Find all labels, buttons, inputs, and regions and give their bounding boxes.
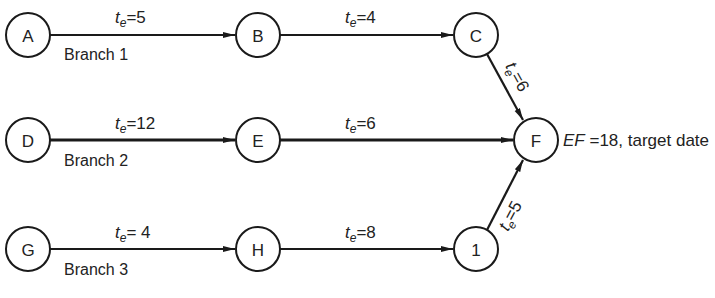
node-1: 1 xyxy=(454,227,498,271)
pert-network-diagram: A B C D E F G H 1 te=5 te=4 te=12 te=6 t… xyxy=(0,0,715,298)
node-h: H xyxy=(236,227,280,271)
svg-text:1: 1 xyxy=(471,241,480,260)
node-e: E xyxy=(236,118,280,162)
svg-text:C: C xyxy=(470,27,482,46)
svg-text:B: B xyxy=(252,27,263,46)
branch-1-label: Branch 1 xyxy=(64,46,128,63)
label-te-d-e: te=12 xyxy=(115,114,155,136)
node-a: A xyxy=(6,13,50,57)
node-b: B xyxy=(236,13,280,57)
label-te-g-h: te= 4 xyxy=(115,223,151,245)
label-te-h-1: te=8 xyxy=(345,223,376,245)
svg-text:H: H xyxy=(252,241,264,260)
node-d: D xyxy=(6,118,50,162)
svg-text:E: E xyxy=(252,132,263,151)
label-te-a-b: te=5 xyxy=(115,8,146,30)
label-te-b-c: te=4 xyxy=(345,8,376,30)
svg-text:A: A xyxy=(22,27,34,46)
label-te-c-f: te=6 xyxy=(499,59,533,97)
node-f: F xyxy=(514,118,558,162)
label-te-e-f: te=6 xyxy=(345,114,376,136)
node-c: C xyxy=(454,13,498,57)
svg-text:F: F xyxy=(531,132,541,151)
svg-text:D: D xyxy=(22,132,34,151)
svg-text:G: G xyxy=(21,241,34,260)
ef-target-annotation: EF =18, target date xyxy=(563,131,709,150)
node-g: G xyxy=(6,227,50,271)
branch-2-label: Branch 2 xyxy=(64,152,128,169)
branch-3-label: Branch 3 xyxy=(64,261,128,278)
